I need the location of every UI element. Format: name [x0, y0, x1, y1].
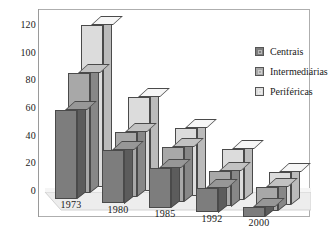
- bar-side-face: [244, 142, 253, 200]
- y-tick-60: 60: [2, 103, 36, 113]
- bar-side-face: [184, 140, 193, 202]
- y-tick-20: 20: [2, 158, 36, 168]
- plot-area-frame: 19731980198519922000 CentraisIntermediár…: [38, 9, 310, 217]
- bar-top-face: [91, 16, 123, 25]
- chart-legend: CentraisIntermediáriasPeriféricas: [255, 46, 332, 106]
- y-tick-120: 120: [2, 20, 36, 30]
- bar-side-face: [137, 125, 146, 197]
- bar-1992-centrais: [196, 181, 227, 213]
- bar-2000-centrais: [243, 200, 274, 217]
- bar-top-face: [185, 119, 217, 128]
- bar-1985-centrais: [149, 161, 180, 208]
- x-label-1980: 1980: [96, 204, 140, 215]
- bar-top-face: [279, 163, 311, 172]
- bar-front-face: [243, 207, 265, 217]
- bar-1973-centrais: [55, 103, 86, 199]
- x-label-1973: 1973: [49, 199, 93, 210]
- bars-layer: [39, 10, 311, 218]
- bar-chart-figure: 020406080100120 19731980198519922000 Cen…: [0, 0, 332, 228]
- legend-label: Intermediárias: [270, 66, 328, 77]
- bar-side-face: [90, 66, 99, 193]
- bar-front-face: [102, 150, 124, 204]
- legend-item-periféricas: Periféricas: [255, 86, 332, 97]
- legend-swatch-icon: [255, 67, 264, 76]
- y-axis-line: [38, 9, 39, 217]
- bar-side-face: [124, 143, 133, 204]
- legend-swatch-icon: [255, 47, 264, 56]
- legend-item-intermediárias: Intermediárias: [255, 66, 332, 77]
- legend-swatch-icon: [255, 87, 264, 96]
- x-label-2000: 2000: [237, 217, 281, 228]
- x-label-1985: 1985: [143, 208, 187, 219]
- legend-item-centrais: Centrais: [255, 46, 332, 57]
- bar-1980-centrais: [102, 143, 133, 204]
- legend-label: Centrais: [270, 46, 303, 57]
- bar-top-face: [138, 88, 170, 97]
- legend-label: Periféricas: [270, 86, 313, 97]
- y-tick-40: 40: [2, 131, 36, 141]
- bar-front-face: [55, 110, 77, 199]
- x-label-1992: 1992: [190, 213, 234, 224]
- bar-top-face: [232, 140, 264, 149]
- y-tick-80: 80: [2, 75, 36, 85]
- y-axis-tick-labels: 020406080100120: [0, 0, 36, 228]
- bar-side-face: [77, 103, 86, 199]
- bar-front-face: [196, 188, 218, 213]
- bar-front-face: [149, 168, 171, 208]
- y-tick-0: 0: [2, 186, 36, 196]
- y-tick-100: 100: [2, 48, 36, 58]
